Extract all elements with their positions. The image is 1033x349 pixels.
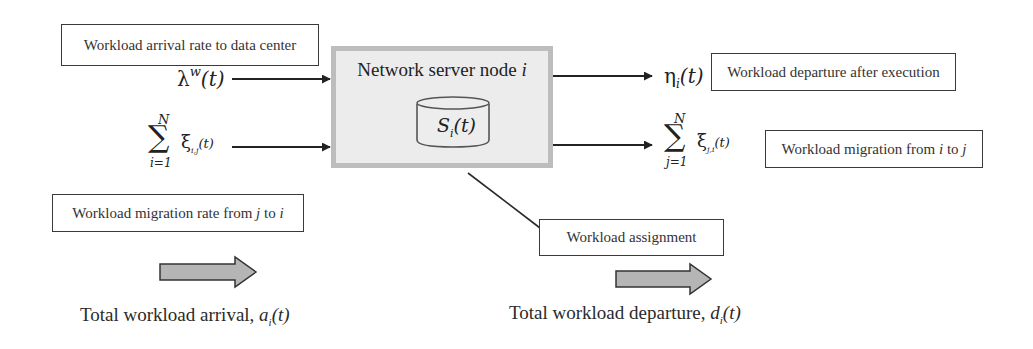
migration-j-to-i-mid: to	[260, 205, 279, 221]
lambda-input-term: λw(t)	[177, 66, 224, 91]
total-departure-caption: Total workload departure, di(t)	[509, 302, 741, 326]
lambda-superscript: w	[190, 64, 201, 79]
assignment-connector	[468, 173, 540, 228]
migration-i-to-j-j: j	[962, 141, 966, 157]
eta-output-term: ηi(t)	[664, 64, 703, 91]
sum-out-term: N ∑ j=1 ξj,i(t)	[664, 111, 744, 171]
storage-var: S	[437, 114, 450, 136]
departure-exec-label-box: Workload departure after execution	[711, 53, 956, 91]
sum-out-subscript: j,i	[707, 145, 715, 154]
sum-out-lower: j=1	[666, 155, 687, 169]
storage-cylinder-icon	[331, 46, 553, 168]
arrival-rate-label-box: Workload arrival rate to data center	[61, 24, 319, 66]
sum-in-arg: (t)	[199, 136, 214, 151]
sum-in-lower: i=1	[150, 156, 172, 170]
sum-out-xi: ξj,i(t)	[697, 130, 730, 154]
sum-in-xi: ξi,j(t)	[181, 131, 214, 155]
migration-j-to-i-label-box: Workload migration rate from j to i	[52, 194, 304, 232]
sum-out-sigma: ∑	[664, 121, 685, 151]
total-departure-var: d	[710, 302, 720, 323]
lambda-arg: (t)	[201, 67, 225, 91]
sum-in-sigma: ∑	[148, 122, 169, 152]
total-departure-text: Total workload departure,	[509, 302, 710, 323]
network-server-node: Network server node i Si(t)	[331, 46, 553, 168]
sum-out-xi-symbol: ξ	[697, 130, 707, 151]
lambda-symbol: λ	[177, 67, 190, 91]
migration-j-to-i-prefix: Workload migration rate from	[72, 205, 256, 221]
migration-j-to-i-i: i	[279, 205, 283, 221]
total-arrival-var: a	[259, 304, 269, 325]
storage-arg: (t)	[454, 114, 476, 136]
block-arrow-departure	[616, 264, 711, 294]
eta-arg: (t)	[680, 64, 704, 88]
migration-i-to-j-label: Workload migration from i to j	[781, 141, 966, 158]
departure-exec-label: Workload departure after execution	[727, 64, 939, 81]
sum-in-xi-symbol: ξ	[181, 131, 191, 152]
total-arrival-caption: Total workload arrival, ai(t)	[80, 304, 290, 328]
migration-i-to-j-mid: to	[943, 141, 962, 157]
migration-i-to-j-prefix: Workload migration from	[781, 141, 939, 157]
arrival-rate-label: Workload arrival rate to data center	[84, 37, 296, 54]
total-departure-arg: (t)	[723, 302, 741, 323]
sum-out-arg: (t)	[715, 135, 730, 150]
block-arrow-arrival	[160, 257, 256, 287]
total-arrival-arg: (t)	[272, 304, 290, 325]
storage-label: Si(t)	[437, 114, 476, 140]
total-arrival-text: Total workload arrival,	[80, 304, 259, 325]
assignment-label: Workload assignment	[566, 229, 696, 246]
migration-i-to-j-label-box: Workload migration from i to j	[765, 130, 983, 168]
sum-in-term: N ∑ i=1 ξi,j(t)	[148, 112, 228, 172]
assignment-label-box: Workload assignment	[539, 219, 724, 256]
sum-in-subscript: i,j	[191, 146, 199, 155]
eta-symbol: η	[664, 64, 676, 88]
migration-j-to-i-label: Workload migration rate from j to i	[72, 205, 283, 222]
